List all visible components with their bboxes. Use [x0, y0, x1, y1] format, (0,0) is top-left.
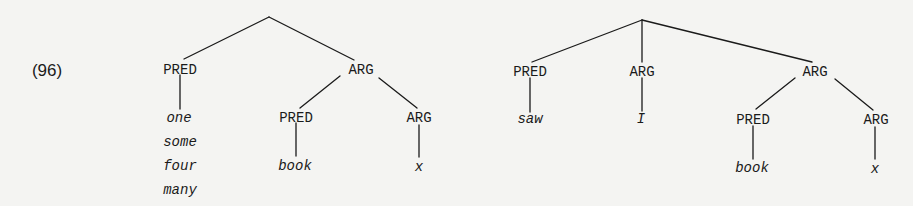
branch-arg-pred — [300, 76, 340, 108]
leaf-word: book — [735, 161, 769, 175]
branch-root-arg2 — [642, 20, 812, 62]
node-arg: ARG — [802, 65, 827, 79]
branch-arg-arg — [379, 78, 417, 108]
node-pred: PRED — [736, 113, 770, 127]
leaf-word: I — [637, 112, 645, 126]
tree-diagram-figure: (96) PRED one some four many ARG PRED bo… — [0, 0, 913, 206]
branch-arg-pred — [756, 78, 795, 109]
leaf-word: one — [166, 111, 191, 125]
branch-root-pred — [532, 20, 642, 62]
branch-arg-arg — [835, 79, 873, 110]
leaf-word: x — [415, 160, 423, 174]
leaf-word: four — [163, 159, 197, 173]
leaf-word: book — [278, 159, 312, 173]
node-pred: PRED — [163, 63, 197, 77]
example-number: (96) — [32, 62, 62, 79]
node-arg: ARG — [348, 63, 373, 77]
leaf-word: some — [163, 135, 197, 149]
node-pred: PRED — [513, 65, 547, 79]
leaf-word: many — [163, 183, 197, 197]
branch-root-pred — [184, 17, 269, 59]
branch-root-arg — [269, 17, 354, 60]
node-arg: ARG — [629, 65, 654, 79]
leaf-word: x — [871, 162, 879, 176]
leaf-word: saw — [517, 112, 542, 126]
node-arg: ARG — [406, 111, 431, 125]
node-pred: PRED — [279, 111, 313, 125]
tree-branches — [0, 0, 913, 206]
node-arg: ARG — [863, 113, 888, 127]
